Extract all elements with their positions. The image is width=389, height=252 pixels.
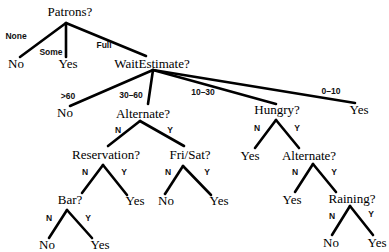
leaf-no: No [57,106,73,119]
edge-label-y: Y [294,124,300,133]
edge-label-10-30: 10–30 [191,88,215,97]
leaf-yes: Yes [350,103,369,116]
leaf-no: No [158,194,174,207]
leaf-no: No [39,238,55,251]
edge-label-y: Y [85,214,91,223]
node-raining: Raining? [329,192,376,205]
edge-label-n: N [292,168,298,177]
node-fri-sat: Fri/Sat? [169,148,210,161]
leaf-yes: Yes [368,236,387,249]
edge-label-y: Y [167,126,173,135]
leaf-no: No [323,236,339,249]
edge-label-n: N [329,212,335,221]
edge-label-n: N [254,124,260,133]
leaf-no: No [8,57,24,70]
leaf-yes: Yes [59,57,78,70]
node-wait-estimate: WaitEstimate? [114,57,189,70]
edge-label-n: N [115,126,121,135]
edge-label-gt60: >60 [61,92,75,101]
node-reservation: Reservation? [72,148,140,161]
edge-label-0-10: 0–10 [322,87,341,96]
node-alternate: Alternate? [116,107,170,120]
node-hungry: Hungry? [254,103,300,116]
edge-label-30-60: 30–60 [119,91,143,100]
node-alternate: Alternate? [282,149,336,162]
edge-label-y: Y [368,210,374,219]
edge-label-n: N [165,168,171,177]
leaf-yes: Yes [283,193,302,206]
edge-label-none: None [5,32,26,41]
edge-label-n: N [46,214,52,223]
edge-label-y: Y [204,168,210,177]
edge-label-n: N [82,168,88,177]
leaf-yes: Yes [241,149,260,162]
decision-tree-diagram: Patrons? None Some Full No Yes WaitEstim… [0,0,389,252]
leaf-yes: Yes [210,194,229,207]
edge-label-full: Full [96,41,111,50]
edge-label-y: Y [331,168,337,177]
node-bar: Bar? [58,193,83,206]
edge-label-y: Y [121,168,127,177]
leaf-yes: Yes [126,194,145,207]
node-patrons: Patrons? [48,5,93,18]
leaf-yes: Yes [91,238,110,251]
